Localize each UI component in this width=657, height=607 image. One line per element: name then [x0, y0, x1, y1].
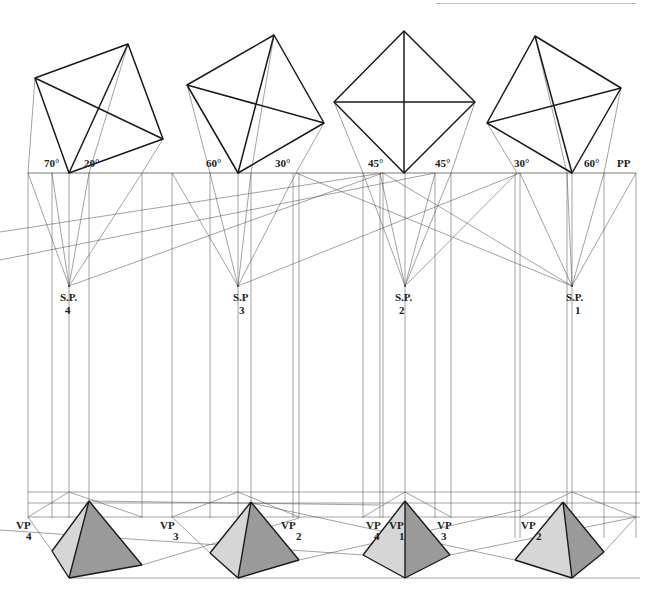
sight-line: [172, 173, 238, 286]
station-point: [404, 285, 406, 287]
station-point-label: S.P.: [566, 291, 584, 303]
projection-verticals: [28, 173, 636, 538]
station-point-number: 1: [575, 304, 581, 316]
sight-line: [0, 173, 435, 260]
angle-label: 60°: [584, 157, 599, 169]
angle-label: 60°: [206, 157, 221, 169]
sight-line: [28, 78, 35, 173]
sight-line: [520, 173, 572, 286]
sight-line: [69, 173, 383, 286]
pyramid-p2: [515, 502, 604, 578]
sight-line: [451, 102, 475, 173]
sight-line: [210, 173, 238, 286]
pyramid-p3: [210, 502, 299, 578]
sight-line: [567, 173, 572, 286]
plan-diagonal: [187, 85, 324, 123]
plan-sp2: [334, 31, 475, 287]
angle-label: 20°: [84, 157, 99, 169]
plan-sp1: [487, 36, 621, 287]
plan-views: [35, 31, 621, 287]
vanishing-point-number: 3: [441, 530, 447, 542]
sight-line: [69, 173, 142, 286]
sight-line: [572, 173, 604, 286]
labels: PP70°20°S.P.460°30°S.P345°45°S.P.230°60°…: [16, 157, 631, 542]
vanishing-point-number: 1: [399, 530, 405, 542]
station-point-number: 2: [399, 304, 405, 316]
perspective-line: [28, 517, 52, 551]
perspective-line: [604, 517, 636, 552]
station-point: [237, 285, 239, 287]
sight-line: [0, 173, 383, 232]
sight-line: [405, 173, 451, 286]
station-point-label: S.P: [233, 291, 249, 303]
station-point-number: 3: [239, 304, 245, 316]
picture-plane-label: PP: [617, 157, 631, 169]
sight-line: [52, 173, 69, 286]
angle-label: 45°: [368, 157, 383, 169]
sight-line: [238, 173, 251, 286]
sight-line: [69, 173, 89, 286]
vanishing-point-number: 2: [296, 530, 302, 542]
perspective-line: [28, 492, 69, 517]
vanishing-point-number: 2: [536, 530, 542, 542]
sight-line: [238, 173, 296, 286]
sight-line: [487, 123, 517, 173]
perspective-diagram: PP70°20°S.P.460°30°S.P345°45°S.P.230°60°…: [0, 0, 657, 607]
sight-line: [405, 173, 517, 286]
vanishing-point-number: 3: [173, 530, 179, 542]
angle-label: 30°: [514, 157, 529, 169]
vanishing-point-label: VP: [281, 519, 296, 531]
perspective-line: [172, 492, 238, 517]
angle-label: 45°: [435, 157, 450, 169]
angle-label: 70°: [44, 157, 59, 169]
sight-line: [296, 173, 572, 286]
station-point: [571, 285, 573, 287]
sight-line: [142, 139, 163, 173]
vanishing-point-number: 4: [26, 530, 32, 542]
sight-line: [334, 102, 363, 173]
sight-line: [28, 173, 69, 286]
sight-line: [405, 173, 435, 286]
station-point: [68, 285, 70, 287]
vanishing-point-label: VP: [521, 519, 536, 531]
angle-label: 30°: [275, 157, 290, 169]
station-point-number: 4: [65, 304, 71, 316]
plan-diagonal: [535, 36, 572, 173]
station-point-label: S.P.: [60, 291, 78, 303]
station-point-label: S.P.: [395, 291, 413, 303]
vanishing-point-number: 4: [374, 530, 380, 542]
